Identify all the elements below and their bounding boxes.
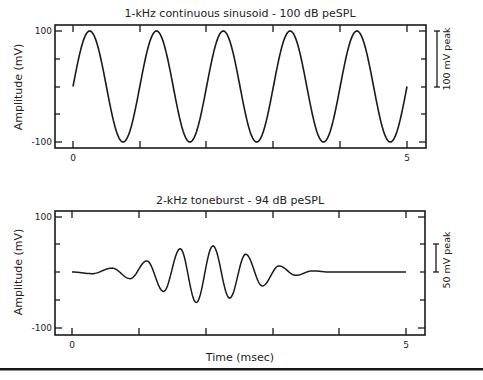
top-chart-title: 1-kHz continuous sinusoid - 100 dB peSPL xyxy=(124,7,356,20)
bottom-chart-title: 2-kHz toneburst - 94 dB peSPL xyxy=(156,194,325,207)
top-y-min-label: -100 xyxy=(32,137,53,147)
top-y-max-label: 100 xyxy=(35,26,52,36)
bottom-chart: 2-kHz toneburst - 94 dB peSPL 100 -100 0… xyxy=(12,194,452,364)
sine-wave-line xyxy=(73,31,407,142)
top-x-end-label: 5 xyxy=(404,153,410,163)
bottom-scale-bar xyxy=(433,244,439,272)
top-chart: 1-kHz continuous sinusoid - 100 dB peSPL… xyxy=(12,7,452,163)
bottom-y-axis-label: Amplitude (mV) xyxy=(12,229,25,316)
bottom-x-end-label: 5 xyxy=(403,340,409,350)
bottom-y-min-label: -100 xyxy=(32,323,53,333)
x-axis-label: Time (msec) xyxy=(205,351,274,364)
bottom-scale-label: 50 mV peak xyxy=(441,231,452,289)
top-y-axis-label: Amplitude (mV) xyxy=(12,44,25,131)
toneburst-wave-line xyxy=(72,246,406,303)
bottom-plot-frame xyxy=(55,211,425,335)
top-x-start-label: 0 xyxy=(70,153,76,163)
figure: 1-kHz continuous sinusoid - 100 dB peSPL… xyxy=(0,0,483,380)
top-scale-label: 100 mV peak xyxy=(441,27,452,91)
bottom-y-max-label: 100 xyxy=(35,212,52,222)
bottom-x-start-label: 0 xyxy=(69,340,75,350)
top-scale-bar xyxy=(434,31,440,87)
bottom-divider-rule xyxy=(0,368,483,371)
